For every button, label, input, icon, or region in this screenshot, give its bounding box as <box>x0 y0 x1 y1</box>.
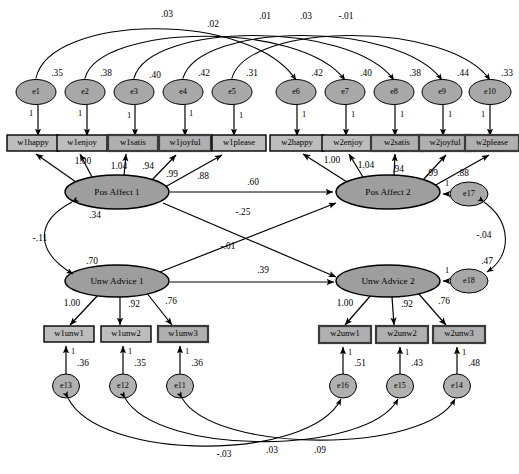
error-variance-e12: .35 <box>134 358 146 368</box>
bottom-error-correlation-arcs <box>68 398 455 446</box>
error-label-e10: e10 <box>484 87 496 96</box>
error-label-e2: e2 <box>81 87 89 96</box>
error-label-e9: e9 <box>438 87 446 96</box>
latent-label-pos-affect-2: Pos Affect 2 <box>365 187 411 197</box>
structural-paths: .60 -.25 -.01 .39 <box>160 177 336 282</box>
wave1-pa-error-terms: e1 .35 1 e2 .38 1 e3 .40 1 e4 .42 1 e5 <box>16 68 258 136</box>
loading-label-ua2-w2unw2: .92 <box>401 299 413 309</box>
fixed-one-e12: 1 <box>128 347 132 356</box>
indicator-label-w2unw2: w2unw2 <box>387 328 417 338</box>
wave2-ua-indicator-boxes: w2unw1 w2unw2 w2unw3 <box>319 326 485 343</box>
loading-label-pa1-w1please: .88 <box>197 171 209 181</box>
error-label-e4: e4 <box>179 87 187 96</box>
fixed-one-e6: 1 <box>302 110 306 119</box>
indicator-label-w1enjoy: w1enjoy <box>67 137 97 147</box>
indicator-label-w2please: w2please <box>476 137 508 147</box>
label-corr-e4-e9: .03 <box>300 11 312 21</box>
fixed-one-e9: 1 <box>448 110 452 119</box>
path-label-ua1-to-pa2: -.01 <box>221 241 236 251</box>
fixed-one-e5: 1 <box>239 111 243 120</box>
label-corr-e1-e6: .03 <box>161 9 173 19</box>
wave1-ua-error-terms: 1 e13 .36 1 e12 .35 1 e11 .36 <box>53 346 204 398</box>
latent-covariance-arc: -.11 <box>33 202 73 274</box>
error-variance-e15: .43 <box>411 358 423 368</box>
indicator-label-w2unw3: w2unw3 <box>444 328 474 338</box>
diagram-canvas: .03 .02 .01 .03 -.01 e1 .35 1 e2 .38 1 e… <box>0 0 519 474</box>
error-variance-e6: .42 <box>311 68 323 78</box>
bottom-error-correlation-labels: -.03 .03 .09 <box>217 445 327 459</box>
latent-label-unw-advice-1: Unw Advice 1 <box>90 276 143 286</box>
fixed-one-e1: 1 <box>29 109 33 118</box>
error-variance-e3: .40 <box>149 70 161 80</box>
fixed-one-e15: 1 <box>405 348 409 357</box>
error-variance-e7: .40 <box>360 68 372 78</box>
loading-label-pa1-w1joyful: .99 <box>166 169 178 179</box>
error-label-e7: e7 <box>341 87 349 96</box>
indicator-label-w1happy: w1happy <box>17 137 49 147</box>
error-label-e3: e3 <box>130 87 138 96</box>
loading-label-ua1-w1unw3: .76 <box>165 296 177 306</box>
fixed-one-e17: 1 <box>445 179 449 188</box>
loading-pa1-w1happy <box>36 154 76 182</box>
error-variance-e9: .44 <box>457 68 469 78</box>
error-variance-e2: .38 <box>100 68 112 78</box>
latent-label-pos-affect-1: Pos Affect 1 <box>94 187 140 197</box>
latent-variance-unw-advice-1: .70 <box>86 256 98 266</box>
indicator-label-w2satis: w2satis <box>384 137 410 147</box>
error-label-e13: e13 <box>60 381 72 390</box>
fixed-one-e8: 1 <box>400 110 404 119</box>
path-label-ua1-to-ua2: .39 <box>257 265 269 275</box>
fixed-one-e18: 1 <box>445 266 449 275</box>
indicator-label-w2unw1: w2unw1 <box>330 328 360 338</box>
error-label-e11: e11 <box>174 381 186 390</box>
error-variance-e1: .35 <box>51 68 63 78</box>
wave2-pa-indicator-boxes: w2happy w2enjoy w2satis w2joyful w2pleas… <box>270 135 519 151</box>
fixed-one-e3: 1 <box>127 111 131 120</box>
indicator-label-w2joyful: w2joyful <box>429 137 461 147</box>
error-variance-e8: .38 <box>409 68 421 78</box>
loading-ua2-w2unw2 <box>392 297 394 325</box>
label-covariance-e17-e18: -.04 <box>477 230 492 240</box>
arc-e3-e8 <box>134 36 394 81</box>
indicator-label-w1unw1: w1unw1 <box>54 328 84 338</box>
loading-label-ua2-w2unw3: .76 <box>438 296 450 306</box>
error-variance-e14: .48 <box>468 358 480 368</box>
error-label-e5: e5 <box>228 87 236 96</box>
error-variance-e16: .51 <box>354 358 366 368</box>
label-corr-e11-e14: .09 <box>314 445 326 455</box>
error-label-e6: e6 <box>292 87 300 96</box>
loading-label-pa2-w2enjoy: 1.04 <box>358 160 375 170</box>
loading-label-ua1-w1unw1: 1.00 <box>64 298 81 308</box>
loading-label-ua2-w2unw1: 1.00 <box>337 298 354 308</box>
indicator-label-w2happy: w2happy <box>281 137 313 147</box>
loading-label-pa2-w2joyful: .99 <box>426 168 438 178</box>
error-label-e1: e1 <box>32 87 40 96</box>
disturbance-label-e18: e18 <box>463 276 475 285</box>
error-variance-e11: .36 <box>191 358 203 368</box>
error-variance-e10: .33 <box>501 68 513 78</box>
indicator-label-w1joyful: w1joyful <box>169 137 201 147</box>
error-label-e14: e14 <box>451 381 463 390</box>
top-error-correlation-labels: .03 .02 .01 .03 -.01 <box>161 9 354 29</box>
path-label-pa1-to-ua2: -.25 <box>236 207 251 217</box>
sem-path-diagram: .03 .02 .01 .03 -.01 e1 .35 1 e2 .38 1 e… <box>0 0 519 474</box>
error-label-e12: e12 <box>117 381 129 390</box>
fixed-one-e10: 1 <box>481 110 485 119</box>
error-variance-e5: .31 <box>246 68 258 78</box>
arc-e11-e14 <box>182 398 455 440</box>
indicator-label-w2enjoy: w2enjoy <box>333 137 363 147</box>
fixed-one-e11: 1 <box>185 347 189 356</box>
loading-label-ua1-w1unw2: .92 <box>128 299 140 309</box>
arc-pa1-ua1 <box>44 202 73 274</box>
wave1-pa-indicator-boxes: w1happy w1enjoy w1satis w1joyful w1pleas… <box>7 135 266 151</box>
error-label-e8: e8 <box>390 87 398 96</box>
arc-e2-e7 <box>85 36 345 80</box>
fixed-one-e4: 1 <box>189 109 193 118</box>
loading-label-pa1-w1satis: .94 <box>142 161 154 171</box>
fixed-one-e2: 1 <box>78 109 82 118</box>
disturbance-label-e17: e17 <box>463 189 475 198</box>
fixed-one-e16: 1 <box>348 348 352 357</box>
loading-label-pa2-w2happy: 1.00 <box>324 155 341 165</box>
label-corr-e5-e10: -.01 <box>339 11 354 21</box>
arc-e13-e16 <box>68 398 341 446</box>
